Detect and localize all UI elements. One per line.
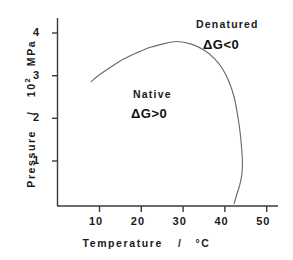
x-axis-title: Temperature / °C	[0, 237, 293, 249]
region-equation-denatured: ΔG<0	[203, 37, 239, 52]
x-tick-label-10: 10	[89, 215, 103, 227]
y-axis-title-unit-exponent: 2	[23, 78, 32, 82]
region-equation-native: ΔG>0	[131, 106, 167, 121]
region-label-native: Native	[133, 88, 172, 100]
y-axis-title-main: Pressure	[25, 130, 37, 188]
phase-diagram-figure: 4 3 2 1 10 20 30 40 50 Temperature / °C …	[0, 0, 293, 260]
x-axis-ticks	[100, 206, 267, 212]
x-tick-label-30: 30	[173, 215, 187, 227]
x-axis-title-unit: °C	[196, 237, 211, 249]
plot-canvas	[0, 0, 293, 260]
x-axis-title-separator: /	[178, 237, 183, 249]
x-axis-title-main: Temperature	[82, 237, 162, 249]
phase-boundary-curve	[91, 42, 242, 204]
y-axis-title: Pressure / 102 MPa	[23, 14, 37, 214]
x-tick-label-20: 20	[131, 215, 145, 227]
y-axis-ticks	[52, 33, 58, 161]
x-tick-label-50: 50	[256, 215, 270, 227]
y-axis-title-separator: /	[25, 110, 37, 115]
y-axis-title-unit-tail: MPa	[25, 40, 37, 66]
x-tick-label-40: 40	[214, 215, 228, 227]
region-label-denatured: Denatured	[196, 18, 259, 30]
y-axis-title-unit-base: 10	[25, 82, 37, 97]
